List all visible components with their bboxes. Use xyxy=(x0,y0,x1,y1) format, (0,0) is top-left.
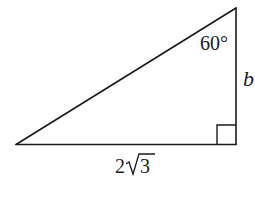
hypotenuse xyxy=(16,8,236,145)
side-label-b: b xyxy=(243,66,254,91)
right-angle-marker xyxy=(217,125,236,145)
base-label-coefficient: 2 xyxy=(115,155,125,177)
angle-label-60: 60° xyxy=(200,32,228,54)
base-label: 2 3 xyxy=(115,154,155,177)
triangle xyxy=(16,8,236,145)
base-label-radicand: 3 xyxy=(140,155,150,177)
right-triangle-diagram: 60° b 2 3 xyxy=(0,0,255,197)
